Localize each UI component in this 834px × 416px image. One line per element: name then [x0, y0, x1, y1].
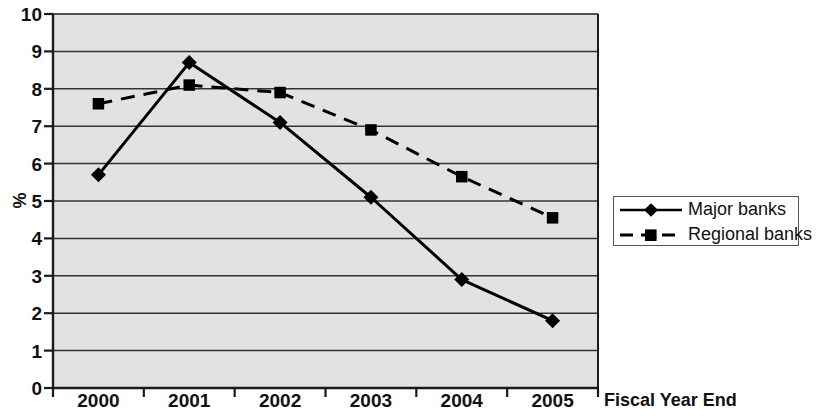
- data-point-marker: [456, 171, 468, 183]
- y-axis-tick-label: 4: [8, 229, 42, 248]
- legend-key-square-dashed-icon: [614, 224, 688, 246]
- legend-entry-regional-banks: Regional banks: [614, 222, 798, 247]
- data-point-marker: [184, 79, 196, 91]
- x-axis-tick-label: 2003: [326, 391, 416, 410]
- legend-label: Regional banks: [688, 224, 812, 245]
- legend-entry-major-banks: Major banks: [614, 197, 798, 222]
- y-axis-tick-label: 9: [8, 42, 42, 61]
- data-point-marker: [93, 98, 105, 110]
- x-axis-title: Fiscal Year End: [604, 390, 737, 411]
- x-axis-tick-label: 2004: [417, 391, 507, 410]
- y-axis-tick-label: 3: [8, 267, 42, 286]
- data-point-marker: [365, 124, 377, 136]
- data-point-marker: [274, 87, 286, 99]
- y-axis-tick-label: 0: [8, 379, 42, 398]
- y-axis-title: %: [10, 171, 31, 231]
- y-axis-tick-label: 10: [8, 5, 42, 24]
- x-axis-tick-label: 2000: [53, 391, 143, 410]
- chart-legend: Major banks Regional banks: [613, 196, 799, 246]
- line-chart: 012345678910 200020012002200320042005 % …: [0, 0, 834, 416]
- x-axis-tick-label: 2001: [144, 391, 234, 410]
- x-axis-tick-label: 2005: [508, 391, 598, 410]
- legend-key-diamond-solid-icon: [614, 199, 688, 221]
- y-axis-tick-label: 2: [8, 304, 42, 323]
- data-point-marker: [547, 212, 559, 224]
- x-axis-tick-label: 2002: [235, 391, 325, 410]
- y-axis-tick-label: 1: [8, 342, 42, 361]
- y-axis-tickmarks: [44, 14, 53, 388]
- legend-label: Major banks: [688, 199, 786, 220]
- y-axis-tick-label: 8: [8, 80, 42, 99]
- y-axis-tick-label: 7: [8, 117, 42, 136]
